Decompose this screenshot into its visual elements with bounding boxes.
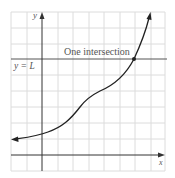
y-axis-label: y [32,10,37,20]
grid [11,12,165,171]
graph-figure: y x y = L One intersection [0,0,175,178]
intersection-point [132,57,136,61]
y-equals-L-label: y = L [13,61,35,71]
graph-canvas: y x y = L One intersection [0,0,175,178]
x-axis [11,153,165,158]
curve-left-arrow-icon [11,137,19,143]
x-axis-label: x [158,158,163,167]
x-axis-arrow-icon [158,153,165,158]
function-curve [16,18,149,139]
y-axis-arrow-icon [40,12,45,19]
one-intersection-annotation: One intersection [64,46,130,57]
